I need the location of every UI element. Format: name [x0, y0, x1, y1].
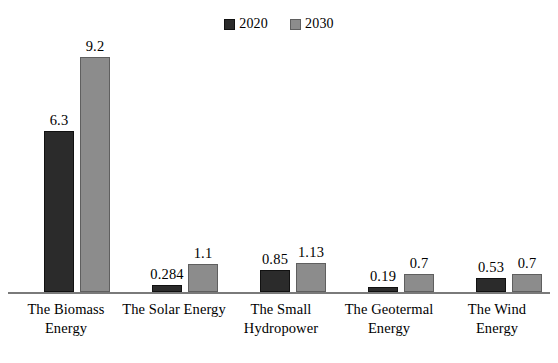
bar-2030-solar[interactable]	[188, 264, 218, 292]
x-axis-label-line: The Solar Energy	[118, 300, 230, 319]
bar-value-2020-biomass: 6.3	[50, 113, 69, 128]
x-axis-label-line: The Wind	[447, 300, 547, 319]
bar-group-wind: 0.53 0.7	[476, 40, 544, 292]
bar-value-2030-biomass: 9.2	[86, 39, 105, 54]
bar-value-2030-wind: 0.7	[518, 256, 537, 271]
legend-label-2020: 2020	[239, 17, 268, 31]
chart-legend: 2020 2030	[0, 14, 558, 34]
x-axis-baseline	[8, 292, 550, 294]
bar-group-solar: 0.284 1.1	[152, 40, 220, 292]
bar-2030-wind[interactable]	[512, 274, 542, 292]
x-axis-label-geotermal: The Geotermal Energy	[333, 300, 445, 338]
x-axis-label-line: Energy	[333, 319, 445, 338]
bar-value-2030-solar: 1.1	[194, 246, 213, 261]
x-axis-label-line: The Small	[231, 300, 331, 319]
x-axis-labels: The Biomass Energy The Solar Energy The …	[0, 300, 558, 360]
x-axis-label-small-hydropower: The Small Hydropower	[231, 300, 331, 338]
x-axis-label-solar: The Solar Energy	[118, 300, 230, 319]
bar-value-2030-geotermal: 0.7	[410, 256, 429, 271]
bar-2020-geotermal[interactable]	[368, 287, 398, 292]
bar-2030-small-hydropower[interactable]	[296, 263, 326, 292]
x-axis-label-line: The Geotermal	[333, 300, 445, 319]
x-axis-label-line: Hydropower	[231, 319, 331, 338]
bar-2030-geotermal[interactable]	[404, 274, 434, 292]
bar-group-biomass: 6.3 9.2	[44, 40, 112, 292]
bar-2020-small-hydropower[interactable]	[260, 270, 290, 292]
legend-item-2030[interactable]: 2030	[290, 17, 334, 31]
x-axis-label-line: Energy	[16, 319, 116, 338]
bar-value-2020-geotermal: 0.19	[370, 269, 396, 284]
bar-value-2020-small-hydropower: 0.85	[262, 252, 288, 267]
plot-area: 6.3 9.2 0.284 1.1 0.85	[0, 40, 558, 294]
x-axis-label-line: Energy	[447, 319, 547, 338]
bar-value-2020-solar: 0.284	[150, 267, 184, 282]
filled-square-icon	[224, 19, 235, 30]
x-axis-label-biomass: The Biomass Energy	[16, 300, 116, 338]
bar-group-small-hydropower: 0.85 1.13	[260, 40, 328, 292]
legend-label-2030: 2030	[305, 17, 334, 31]
filled-square-icon	[290, 19, 301, 30]
x-axis-label-wind: The Wind Energy	[447, 300, 547, 338]
bar-2030-biomass[interactable]	[80, 57, 110, 292]
legend-item-2020[interactable]: 2020	[224, 17, 268, 31]
bar-value-2020-wind: 0.53	[478, 260, 504, 275]
bar-2020-solar[interactable]	[152, 285, 182, 292]
bar-2020-biomass[interactable]	[44, 131, 74, 292]
bar-chart: 2020 2030 6.3 9.2 0.284	[0, 0, 558, 363]
bar-2020-wind[interactable]	[476, 278, 506, 292]
bar-value-2030-small-hydropower: 1.13	[298, 245, 324, 260]
x-axis-label-line: The Biomass	[16, 300, 116, 319]
bar-group-geotermal: 0.19 0.7	[368, 40, 436, 292]
